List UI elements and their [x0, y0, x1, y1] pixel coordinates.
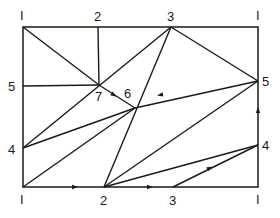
node-label-l4: 4 — [8, 142, 15, 157]
node-label-n6: 6 — [124, 86, 131, 101]
network-diagram: I23I545476I23I — [0, 0, 280, 218]
arrowhead-icon — [256, 107, 260, 113]
node-label-tr: I — [256, 8, 260, 23]
node-label-t3: 3 — [167, 9, 174, 24]
arrow-icons — [72, 92, 260, 190]
edge-line — [23, 108, 135, 148]
node-label-r4: 4 — [262, 138, 269, 153]
node-label-br: I — [256, 192, 260, 207]
edges — [23, 27, 258, 187]
edge-line — [23, 85, 99, 86]
edge-line — [104, 145, 258, 187]
node-label-b2: 2 — [100, 193, 107, 208]
edge-line — [98, 27, 99, 85]
node-label-n7: 7 — [95, 89, 102, 104]
arrowhead-icon — [157, 92, 164, 98]
node-label-t2: 2 — [94, 9, 101, 24]
node-label-bl: I — [20, 192, 24, 207]
edge-line — [104, 27, 171, 187]
arrowhead-icon — [147, 185, 153, 189]
node-label-b3: 3 — [169, 193, 176, 208]
arrowhead-icon — [72, 185, 78, 189]
edge-line — [23, 108, 135, 187]
node-label-tl: I — [20, 8, 24, 23]
edge-line — [171, 27, 258, 81]
node-label-r5: 5 — [262, 74, 269, 89]
edge-line — [173, 145, 258, 187]
edge-line — [23, 27, 171, 148]
node-label-l5: 5 — [8, 79, 15, 94]
edge-line — [23, 27, 99, 85]
